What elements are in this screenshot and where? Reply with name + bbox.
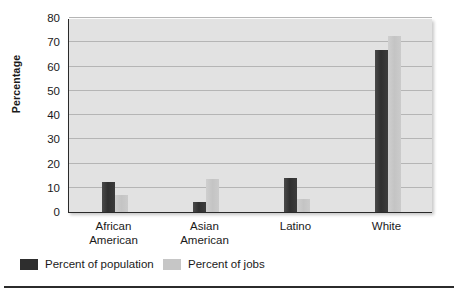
bar-population [102,182,115,212]
y-axis-tick-label: 70 [34,37,60,49]
bar-jobs [297,199,310,212]
bar-jobs [115,195,128,212]
y-axis-title: Percentage [10,44,22,124]
x-axis-category-label: White [327,219,447,233]
y-axis-tick-label: 0 [34,207,60,219]
plot-inner [69,19,432,212]
bar-jobs [388,36,401,212]
bar-chart-figure: Percentage 01020304050607080 AfricanAmer… [0,0,458,295]
y-axis-tick-label: 40 [34,110,60,122]
y-axis-tick-label: 50 [34,86,60,98]
bar-population [193,202,206,212]
y-axis-tick-label: 20 [34,159,60,171]
legend-item[interactable]: Percent of population [20,258,154,270]
legend-label: Percent of population [45,258,154,270]
bar-population [284,178,297,212]
bar-population [375,50,388,212]
y-axis-tick-label: 60 [34,62,60,74]
y-axis-tick-label: 30 [34,134,60,146]
plot-area [68,19,432,213]
legend-swatch-jobs [163,259,181,270]
x-axis-category-label-line: White [327,219,447,233]
x-axis-category-label-line: American [145,233,265,247]
gridline [69,41,432,42]
y-axis-tick-label: 80 [34,13,60,25]
legend-item[interactable]: Percent of jobs [163,258,265,270]
legend-label: Percent of jobs [188,258,265,270]
legend-swatch-population [20,259,38,270]
bar-jobs [206,179,219,212]
bottom-divider-rule [4,286,454,288]
gridline [69,17,432,18]
y-axis-tick-label: 10 [34,183,60,195]
